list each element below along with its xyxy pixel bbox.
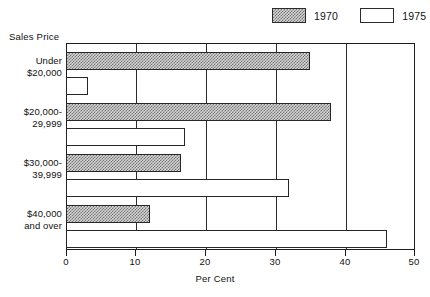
x-tick-label-30: 30 — [260, 256, 290, 267]
x-tick-label-40: 40 — [330, 256, 360, 267]
bar-1975-30000-39999 — [66, 179, 289, 197]
bar-1975-under-20000 — [66, 77, 88, 95]
category-label-1-line-0: $20,000- — [0, 106, 62, 118]
category-label-3-line-0: $40,000 — [0, 208, 62, 220]
x-tick-label-10: 10 — [120, 256, 150, 267]
legend-label-1975: 1975 — [402, 10, 426, 22]
legend-item-1970: 1970 — [272, 8, 360, 23]
category-label-2-line-0: $30,000- — [0, 157, 62, 169]
chart-legend: 1970 1975 — [272, 8, 426, 23]
bar-1970-20000-29999 — [66, 103, 331, 121]
category-label-2-line-1: 39,999 — [0, 169, 62, 181]
category-label-1-line-1: 29,999 — [0, 118, 62, 130]
category-label-3-line-1: and over — [0, 220, 62, 232]
y-axis-title: Sales Price — [9, 31, 59, 42]
category-label-0-line-1: $20,000 — [0, 67, 62, 79]
legend-swatch-1975-icon — [360, 8, 394, 23]
x-axis-title: Per Cent — [0, 273, 430, 284]
legend-item-1975: 1975 — [360, 8, 426, 23]
bars-layer — [66, 43, 415, 250]
bar-1970-under-20000 — [66, 52, 310, 70]
x-tick-label-50: 50 — [399, 256, 429, 267]
x-axis-tick-labels: 0 10 20 30 40 50 — [0, 256, 430, 270]
bar-1970-40000-and-over — [66, 205, 150, 223]
category-label-3: $40,000 and over — [0, 208, 62, 231]
legend-label-1970: 1970 — [314, 10, 338, 22]
bar-1970-30000-39999 — [66, 154, 181, 172]
y-axis-category-labels: Under $20,000 $20,000- 29,999 $30,000- 3… — [0, 43, 62, 250]
x-tick-label-0: 0 — [51, 256, 81, 267]
x-tick-label-20: 20 — [190, 256, 220, 267]
bar-1975-40000-and-over — [66, 230, 387, 248]
legend-swatch-1970-icon — [272, 8, 306, 23]
category-label-2: $30,000- 39,999 — [0, 157, 62, 180]
category-label-0: Under $20,000 — [0, 55, 62, 78]
bar-chart: 1970 1975 Sales Price Under $20,000 $20,… — [0, 0, 430, 297]
bar-1975-20000-29999 — [66, 128, 185, 146]
category-label-1: $20,000- 29,999 — [0, 106, 62, 129]
category-label-0-line-0: Under — [0, 55, 62, 67]
